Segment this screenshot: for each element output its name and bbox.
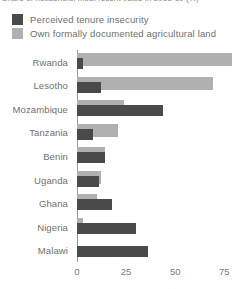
bar-group-nigeria (77, 215, 249, 239)
legend-label-dark: Perceived tenure insecurity (30, 14, 149, 25)
x-axis-tick-0: 0 (74, 266, 79, 277)
bar-dark-tanzania (77, 129, 93, 140)
plot-area: RwandaLesothoMozambiqueTanzaniaBeninUgan… (0, 50, 249, 265)
bar-dark-rwanda (77, 58, 83, 69)
y-axis-label-uganda: Uganda (34, 174, 68, 185)
bar-dark-uganda (77, 176, 99, 187)
bar-groups (77, 50, 249, 262)
bar-group-uganda (77, 168, 249, 192)
x-axis-tick-50: 50 (170, 266, 181, 277)
y-axis-label-nigeria: Nigeria (37, 221, 68, 232)
bar-group-lesotho (77, 74, 249, 98)
y-axis-label-mozambique: Mozambique (13, 103, 68, 114)
bar-dark-benin (77, 152, 105, 163)
legend-item-perceived-tenure-insecurity: Perceived tenure insecurity (12, 13, 216, 26)
y-axis-label-benin: Benin (43, 151, 68, 162)
legend-item-own-documented-land: Own formally documented agricultural lan… (12, 27, 216, 40)
bar-group-mozambique (77, 97, 249, 121)
bar-dark-malawi (77, 246, 148, 257)
y-axis-label-rwanda: Rwanda (33, 56, 68, 67)
bar-dark-nigeria (77, 223, 136, 234)
bar-group-malawi (77, 238, 249, 262)
x-axis-tick-25: 25 (121, 266, 132, 277)
y-axis-label-malawi: Malawi (38, 245, 68, 256)
legend-label-light: Own formally documented agricultural lan… (30, 28, 216, 39)
bar-group-benin (77, 144, 249, 168)
y-axis-label-lesotho: Lesotho (33, 80, 68, 91)
bar-group-tanzania (77, 121, 249, 145)
bar-group-rwanda (77, 50, 249, 74)
bar-light-rwanda (77, 53, 232, 66)
y-axis-label-tanzania: Tanzania (29, 127, 68, 138)
page-title: Share of household, most recent value in… (2, 0, 199, 3)
bar-dark-ghana (77, 199, 112, 210)
legend-swatch-icon-dark (12, 14, 23, 25)
y-axis-label-ghana: Ghana (39, 198, 68, 209)
chart-figure: Share of household, most recent value in… (0, 0, 249, 289)
bar-dark-mozambique (77, 105, 163, 116)
legend-swatch-icon-light (12, 28, 23, 39)
x-axis-tick-75: 75 (219, 266, 230, 277)
x-axis: 0255075 (0, 262, 249, 289)
bar-dark-lesotho (77, 82, 101, 93)
chart-legend: Perceived tenure insecurity Own formally… (12, 13, 216, 41)
chart-title-clipped: Share of household, most recent value in… (0, 0, 249, 7)
bar-group-ghana (77, 191, 249, 215)
y-axis-labels: RwandaLesothoMozambiqueTanzaniaBeninUgan… (0, 50, 74, 262)
